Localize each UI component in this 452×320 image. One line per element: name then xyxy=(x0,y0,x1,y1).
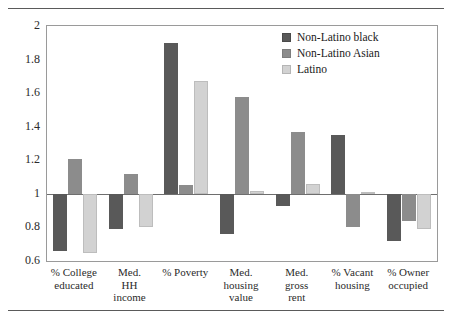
legend-item-label: Latino xyxy=(297,63,327,76)
legend-swatch-icon xyxy=(282,49,291,58)
bar xyxy=(250,191,264,194)
legend-item: Non-Latino Asian xyxy=(282,46,432,60)
x-axis-label: % Owneroccupied xyxy=(380,266,436,291)
bar xyxy=(346,194,360,228)
bar-group xyxy=(214,26,270,261)
bar-group xyxy=(158,26,214,261)
x-axis-label-line: HH xyxy=(102,279,158,292)
y-tick-label: 0.6 xyxy=(0,254,40,266)
x-axis-label: Med.grossrent xyxy=(269,266,325,304)
bar-group xyxy=(103,26,159,261)
bar xyxy=(53,194,67,251)
bar xyxy=(331,135,345,194)
x-axis-label: Med.housingvalue xyxy=(213,266,269,304)
legend-item-label: Non-Latino black xyxy=(297,31,378,44)
legend-swatch-icon xyxy=(282,33,291,42)
x-axis-label-line: Med. xyxy=(102,266,158,279)
y-tick-label: 2 xyxy=(0,19,40,31)
x-axis-label-line: rent xyxy=(269,291,325,304)
bar xyxy=(361,192,375,194)
bar xyxy=(417,194,431,229)
x-axis-label: Med.HHincome xyxy=(102,266,158,304)
legend-item: Latino xyxy=(282,62,432,76)
x-axis-label: % Collegeeducated xyxy=(46,266,102,291)
y-tick-label: 1.2 xyxy=(0,153,40,165)
x-axis-label-line: value xyxy=(213,291,269,304)
x-axis-label-line: % Vacant xyxy=(325,266,381,279)
bar xyxy=(83,194,97,253)
bar xyxy=(109,194,123,229)
legend-swatch-icon xyxy=(282,65,291,74)
legend-item-label: Non-Latino Asian xyxy=(297,47,380,60)
bar xyxy=(402,194,416,221)
bar xyxy=(179,185,193,193)
bar xyxy=(164,43,178,194)
y-axis: 21.81.61.41.210.80.6 xyxy=(0,25,46,262)
x-axis-label-line: housing xyxy=(325,279,381,292)
bar xyxy=(235,97,249,194)
x-axis-labels: % CollegeeducatedMed.HHincome% PovertyMe… xyxy=(46,266,438,314)
bar xyxy=(194,81,208,193)
y-tick-label: 1.6 xyxy=(0,86,40,98)
x-axis-label-line: occupied xyxy=(380,279,436,292)
x-axis-label-line: housing xyxy=(213,279,269,292)
y-tick-label: 1 xyxy=(0,187,40,199)
x-axis-label: % Poverty xyxy=(157,266,213,279)
bar xyxy=(306,184,320,194)
y-tick-label: 1.8 xyxy=(0,53,40,65)
x-axis-label-line: educated xyxy=(46,279,102,292)
x-axis-label-line: income xyxy=(102,291,158,304)
bar xyxy=(220,194,234,234)
x-axis-label-line: Med. xyxy=(269,266,325,279)
bar xyxy=(139,194,153,228)
x-axis-label: % Vacanthousing xyxy=(325,266,381,291)
figure: 21.81.61.41.210.80.6 % CollegeeducatedMe… xyxy=(0,0,452,320)
y-tick-label: 0.8 xyxy=(0,220,40,232)
x-axis-label-line: % College xyxy=(46,266,102,279)
bar xyxy=(387,194,401,241)
y-tick-label: 1.4 xyxy=(0,120,40,132)
legend-item: Non-Latino black xyxy=(282,30,432,44)
bar xyxy=(291,132,305,194)
x-axis-label-line: gross xyxy=(269,279,325,292)
x-axis-label-line: Med. xyxy=(213,266,269,279)
bar xyxy=(124,174,138,194)
bar xyxy=(68,159,82,194)
legend: Non-Latino blackNon-Latino AsianLatino xyxy=(282,30,432,78)
figure-top-rule xyxy=(8,8,444,9)
bar-group xyxy=(47,26,103,261)
bar xyxy=(276,194,290,206)
x-axis-label-line: % Poverty xyxy=(157,266,213,279)
x-axis-label-line: % Owner xyxy=(380,266,436,279)
